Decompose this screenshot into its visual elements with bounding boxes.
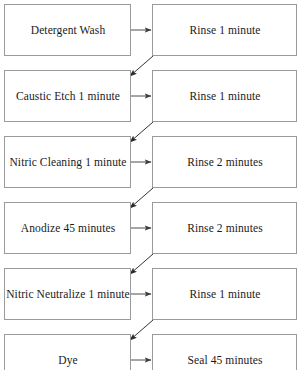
arrow-diagonal-1 xyxy=(130,56,153,76)
node-box-right-1 xyxy=(153,5,297,56)
node-box-left-1 xyxy=(5,5,131,56)
node-box-left-6 xyxy=(5,335,131,370)
arrow-diagonal-3 xyxy=(130,188,153,208)
arrow-diagonal-4 xyxy=(130,254,153,274)
node-box-right-4 xyxy=(153,203,297,254)
arrow-diagonal-5 xyxy=(130,320,153,340)
node-box-right-2 xyxy=(153,71,297,122)
arrow-diagonal-2 xyxy=(130,122,153,142)
node-box-left-4 xyxy=(5,203,131,254)
node-box-right-3 xyxy=(153,137,297,188)
node-box-left-5 xyxy=(5,269,131,320)
node-box-left-2 xyxy=(5,71,131,122)
flowchart-canvas: Detergent Wash Rinse 1 minute Caustic Et… xyxy=(0,0,305,370)
node-box-right-5 xyxy=(153,269,297,320)
node-box-left-3 xyxy=(5,137,131,188)
node-box-right-6 xyxy=(153,335,297,370)
flowchart-graphics xyxy=(0,0,305,370)
